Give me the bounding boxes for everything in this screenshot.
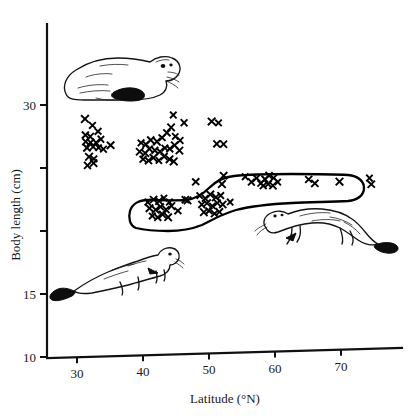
data-point-marker	[213, 140, 220, 147]
y-tick-label: 30	[23, 98, 36, 113]
data-point-marker	[176, 147, 183, 155]
data-point-marker	[227, 199, 233, 206]
data-point-marker	[336, 178, 344, 186]
data-point-marker	[192, 178, 199, 185]
y-axis-title: Body length (cm)	[8, 169, 23, 261]
data-point-marker	[215, 120, 221, 126]
x-tick-labels: 3040506070	[71, 359, 348, 381]
data-point-marker	[366, 175, 372, 182]
data-point-marker	[311, 180, 318, 187]
data-point-marker	[174, 207, 181, 214]
x-tick-label: 70	[335, 359, 348, 374]
scatter-plot-canvas: 301510 3040506070	[0, 0, 410, 420]
y-tick-label: 10	[23, 350, 36, 365]
weasel-running-illustration	[50, 248, 184, 301]
x-tick-label: 60	[269, 361, 282, 376]
data-point-marker	[95, 128, 102, 135]
data-point-marker	[84, 162, 91, 169]
weasel-resting-illustration	[64, 57, 180, 101]
data-point-marker	[146, 205, 153, 212]
x-tick-label: 50	[203, 362, 216, 377]
data-point-marker	[107, 142, 114, 149]
data-markers-upper-cluster	[81, 112, 227, 169]
y-tick-labels: 301510	[23, 98, 36, 365]
data-point-marker	[147, 136, 154, 143]
data-point-marker	[81, 115, 89, 123]
data-point-marker	[305, 176, 312, 183]
data-point-marker	[181, 119, 188, 126]
figure-root: 301510 3040506070	[0, 0, 410, 420]
data-point-marker	[218, 180, 226, 188]
data-point-marker	[89, 122, 96, 129]
y-tick-label: 15	[23, 287, 36, 302]
data-point-marker	[219, 201, 226, 208]
x-tick-label: 40	[137, 364, 150, 379]
x-tick-label: 30	[71, 366, 84, 381]
data-point-marker	[220, 140, 227, 147]
data-point-marker	[170, 112, 176, 119]
x-axis-title: Latitude (°N)	[190, 391, 260, 406]
stoat-illustration	[255, 209, 398, 253]
data-point-marker	[208, 118, 216, 126]
data-point-marker	[368, 181, 375, 188]
